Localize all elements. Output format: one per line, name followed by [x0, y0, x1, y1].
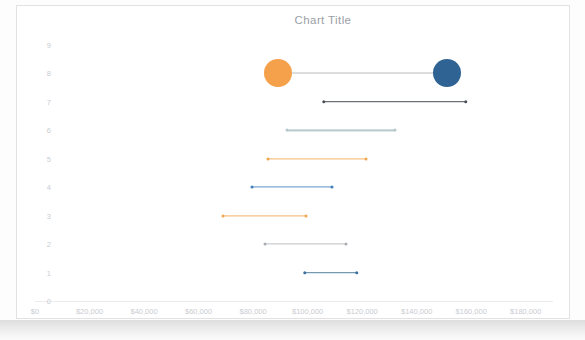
- page-shadow-band: [0, 320, 585, 340]
- x-axis-tick-label: $140,000: [401, 307, 432, 316]
- series-end-marker[interactable]: [331, 186, 334, 189]
- series-end-bubble[interactable]: [433, 59, 461, 87]
- series-row[interactable]: [17, 152, 571, 166]
- series-row[interactable]: [17, 66, 571, 80]
- series-connector-line: [287, 130, 395, 131]
- series-start-marker[interactable]: [222, 214, 225, 217]
- series-start-marker[interactable]: [264, 243, 267, 246]
- series-start-marker[interactable]: [267, 157, 270, 160]
- series-start-marker[interactable]: [303, 271, 307, 275]
- x-axis-tick-label: $180,000: [510, 307, 541, 316]
- series-start-marker[interactable]: [286, 129, 289, 132]
- series-row[interactable]: [17, 95, 571, 109]
- series-connector-line: [252, 187, 332, 188]
- series-connector-line: [278, 73, 447, 74]
- series-row[interactable]: [17, 123, 571, 137]
- series-connector-line: [265, 244, 345, 245]
- plot-area: 0123456789 $0$20,000$40,000$60,000$80,00…: [17, 6, 571, 320]
- series-end-marker[interactable]: [464, 100, 468, 104]
- series-end-marker[interactable]: [365, 157, 368, 160]
- x-axis-tick-label: $80,000: [240, 307, 267, 316]
- series-end-marker[interactable]: [393, 129, 396, 132]
- series-row[interactable]: [17, 266, 571, 280]
- x-axis-tick-label: $100,000: [292, 307, 323, 316]
- x-axis-tick-label: $60,000: [185, 307, 212, 316]
- series-connector-line: [223, 215, 306, 216]
- chart-card: Chart Title 0123456789 $0$20,000$40,000$…: [16, 5, 570, 319]
- x-axis-tick-label: $120,000: [347, 307, 378, 316]
- series-start-marker[interactable]: [322, 100, 326, 104]
- x-axis-tick-label: $40,000: [130, 307, 157, 316]
- x-axis-tick-label: $160,000: [456, 307, 487, 316]
- series-row[interactable]: [17, 237, 571, 251]
- x-axis-tick-label: $0: [31, 307, 39, 316]
- series-start-marker[interactable]: [250, 186, 253, 189]
- screenshot-root: Chart Title 0123456789 $0$20,000$40,000$…: [0, 0, 585, 340]
- series-connector-line: [305, 272, 357, 274]
- series-start-bubble[interactable]: [264, 59, 292, 87]
- series-row[interactable]: [17, 209, 571, 223]
- series-end-marker[interactable]: [355, 271, 359, 275]
- x-axis-tick-label: $20,000: [76, 307, 103, 316]
- series-connector-line: [268, 158, 366, 159]
- series-end-marker[interactable]: [305, 214, 308, 217]
- series-end-marker[interactable]: [344, 243, 347, 246]
- series-row[interactable]: [17, 180, 571, 194]
- series-connector-line: [324, 101, 466, 103]
